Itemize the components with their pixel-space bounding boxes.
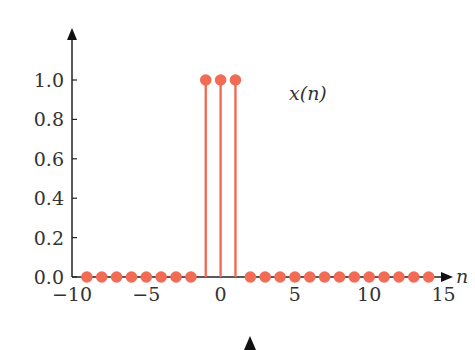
y-tick-label: 0.8 [34, 108, 64, 130]
stem-marker [349, 271, 361, 283]
y-tick-label: 0.6 [34, 148, 64, 170]
stems [81, 74, 434, 283]
stem-chart: n0.00.20.40.60.81.0−10−5051015x(n) [0, 0, 475, 350]
x-tick-label: −5 [132, 283, 160, 305]
series-label: x(n) [289, 82, 327, 104]
stem-marker [185, 271, 197, 283]
stem-marker [408, 271, 420, 283]
x-axis-arrow-icon [441, 272, 453, 282]
stem-marker [259, 271, 271, 283]
y-tick-label: 0.2 [34, 227, 64, 249]
x-tick-label: 15 [431, 283, 455, 305]
stem-marker [141, 271, 153, 283]
axes [67, 28, 453, 350]
stem-marker [96, 271, 108, 283]
y-tick-label: 1.0 [34, 69, 64, 91]
next-figure-arrow-icon [244, 336, 256, 350]
stem-marker [111, 271, 123, 283]
x-tick-label: −10 [52, 283, 92, 305]
stem-marker [126, 271, 138, 283]
stem-marker [274, 271, 286, 283]
x-axis-label: n [456, 265, 468, 287]
stem-marker [170, 271, 182, 283]
labels: n0.00.20.40.60.81.0−10−5051015x(n) [34, 69, 468, 305]
stem-marker [155, 271, 167, 283]
stem-marker [334, 271, 346, 283]
stem-marker [230, 74, 242, 86]
stem-marker [378, 271, 390, 283]
y-tick-label: 0.4 [34, 187, 64, 209]
x-tick-label: 0 [215, 283, 227, 305]
stem-marker [393, 271, 405, 283]
stem-marker [289, 271, 301, 283]
stem-marker [423, 271, 435, 283]
stem-marker [304, 271, 316, 283]
stem-marker [363, 271, 375, 283]
stem-marker [319, 271, 331, 283]
y-axis-arrow-icon [67, 28, 77, 40]
stem-marker [245, 271, 257, 283]
x-tick-label: 5 [289, 283, 301, 305]
stem-marker [200, 74, 212, 86]
stem-marker [81, 271, 93, 283]
stem-marker [215, 74, 227, 86]
x-tick-label: 10 [357, 283, 381, 305]
